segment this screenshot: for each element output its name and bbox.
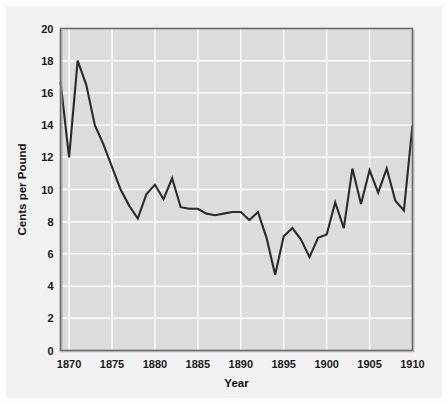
y-axis-tick-labels: 02468101214161820 bbox=[41, 23, 54, 357]
x-axis-title: Year bbox=[224, 377, 249, 389]
y-axis-title: Cents per Pound bbox=[16, 143, 28, 235]
y-tick-label: 2 bbox=[47, 312, 53, 324]
y-tick-label: 20 bbox=[41, 23, 53, 35]
x-axis-tick-labels: 187018751880188518901895190019051910 bbox=[57, 358, 425, 370]
y-tick-label: 14 bbox=[41, 119, 54, 131]
y-tick-label: 4 bbox=[47, 280, 54, 292]
y-tick-label: 18 bbox=[41, 55, 53, 67]
x-tick-label: 1870 bbox=[57, 358, 81, 370]
x-tick-label: 1885 bbox=[186, 358, 210, 370]
x-tick-label: 1905 bbox=[357, 358, 381, 370]
x-tick-label: 1910 bbox=[400, 358, 424, 370]
line-chart: 0246810121416182018701875188018851890189… bbox=[0, 0, 448, 404]
y-tick-label: 16 bbox=[41, 87, 53, 99]
x-tick-label: 1895 bbox=[271, 358, 295, 370]
x-tick-label: 1890 bbox=[229, 358, 253, 370]
x-tick-label: 1900 bbox=[314, 358, 338, 370]
y-tick-label: 6 bbox=[47, 248, 53, 260]
y-tick-label: 12 bbox=[41, 151, 53, 163]
x-tick-label: 1875 bbox=[100, 358, 124, 370]
y-tick-label: 10 bbox=[41, 184, 53, 196]
x-tick-label: 1880 bbox=[143, 358, 167, 370]
figure-container: 0246810121416182018701875188018851890189… bbox=[0, 0, 448, 404]
y-tick-label: 8 bbox=[47, 216, 53, 228]
y-tick-label: 0 bbox=[47, 345, 53, 357]
